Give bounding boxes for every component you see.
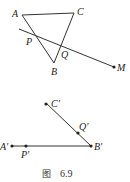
point-b-prime [89, 144, 92, 147]
label-b-prime: B′ [94, 141, 103, 152]
label-q-prime: Q′ [79, 121, 89, 132]
label-m: M [116, 62, 126, 73]
label-b: B [51, 66, 57, 77]
top-diagram: A C B P Q M [11, 6, 126, 77]
label-q: Q [61, 49, 69, 60]
label-c-prime: C′ [51, 98, 61, 109]
point-a-prime [10, 144, 13, 147]
label-p: P [25, 36, 32, 47]
point-p-prime [24, 144, 27, 147]
segment-ac [22, 13, 74, 15]
caption-number: 6.9 [60, 168, 73, 179]
bottom-diagram: A′ P′ B′ C′ Q′ [0, 98, 103, 160]
label-p-prime: P′ [20, 149, 30, 160]
line-pm [19, 29, 114, 67]
label-a: A [11, 8, 19, 19]
label-a-prime: A′ [0, 141, 9, 152]
figure-caption: 图 6.9 [42, 168, 73, 179]
figure-canvas: A C B P Q M A′ P′ B′ C′ Q′ 图 6.9 [0, 0, 130, 182]
label-c: C [77, 6, 84, 17]
point-m [112, 65, 115, 68]
caption-prefix: 图 [42, 169, 51, 179]
point-c-prime [44, 102, 47, 105]
